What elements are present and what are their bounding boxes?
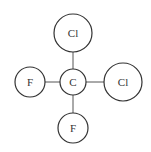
atom-label: F bbox=[27, 76, 33, 88]
atom-cl-top: Cl bbox=[54, 14, 92, 52]
atom-label: Cl bbox=[118, 76, 128, 88]
molecule-diagram: Cl C F Cl F bbox=[0, 0, 151, 152]
atom-label: C bbox=[69, 76, 76, 88]
atom-cl-right: Cl bbox=[104, 63, 142, 101]
atom-label: F bbox=[70, 122, 76, 134]
atom-c-center: C bbox=[60, 69, 86, 95]
atom-f-left: F bbox=[15, 67, 45, 97]
atom-f-bottom: F bbox=[58, 113, 88, 143]
atom-label: Cl bbox=[68, 27, 78, 39]
